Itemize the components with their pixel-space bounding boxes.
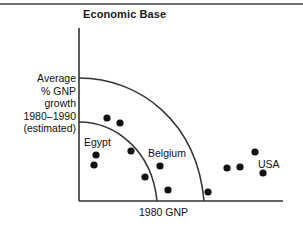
data-point	[141, 173, 148, 180]
y-axis-label-line-2: % GNP	[0, 85, 76, 98]
x-axis-label-text: 1980 GNP	[115, 206, 188, 218]
axes-group	[79, 28, 283, 201]
data-point	[103, 114, 110, 121]
x-axis-label: 1980 GNP	[0, 206, 303, 218]
data-point	[90, 161, 97, 168]
y-axis-label-line-4: 1980–1990	[0, 110, 76, 123]
point-label-usa: USA	[258, 158, 280, 170]
inner-frontier-arc	[79, 122, 157, 201]
point-label-egypt: Egypt	[84, 136, 111, 148]
data-point	[236, 163, 243, 170]
data-point	[164, 186, 171, 193]
data-point	[223, 164, 230, 171]
point-label-belgium: Belgium	[148, 147, 186, 159]
data-point	[259, 169, 266, 176]
y-axis-label-line-1: Average	[0, 72, 76, 85]
data-point	[204, 188, 211, 195]
data-point	[127, 147, 134, 154]
y-axis-label-line-3: growth	[0, 97, 76, 110]
data-point	[116, 119, 123, 126]
data-point	[156, 162, 163, 169]
data-point	[92, 151, 99, 158]
y-axis-label-line-5: (estimated)	[0, 122, 76, 135]
data-point	[251, 148, 258, 155]
y-axis-label: Average % GNP growth 1980–1990 (estimate…	[0, 72, 76, 135]
economic-base-figure: Economic Base Average % GNP growth 1980–…	[0, 0, 303, 233]
